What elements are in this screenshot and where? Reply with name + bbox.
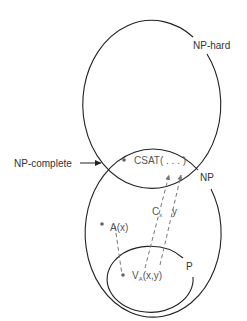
dashed-arrow-y [160, 175, 181, 265]
verifier-dot [121, 273, 125, 277]
y-label: y [172, 206, 177, 217]
np-hard-label: NP-hard [193, 40, 230, 51]
dashed-arrow-cx [145, 175, 169, 268]
cx-subscript: x [159, 212, 162, 218]
csat-dot [122, 158, 126, 162]
verifier-label: VA(x,y) [132, 270, 162, 282]
cx-main: C [152, 206, 159, 217]
csat-label: CSAT( . . . ) [134, 155, 186, 166]
np-label: NP [200, 172, 214, 183]
p-label: P [186, 261, 193, 272]
a-label: A(x) [110, 222, 128, 233]
a-dot [100, 222, 104, 226]
np-complete-label: NP-complete [14, 158, 72, 169]
cx-label: Cx [152, 206, 162, 218]
complexity-diagram: NP-hard NP P NP-complete CSAT( . . . ) A… [0, 0, 247, 321]
verifier-args: (x,y) [143, 270, 162, 281]
dashed-line-a-to-verifier [115, 226, 122, 275]
